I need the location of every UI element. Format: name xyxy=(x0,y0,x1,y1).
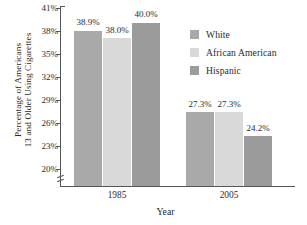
x-axis-line xyxy=(60,186,295,187)
legend-item-white[interactable]: White xyxy=(190,26,277,42)
x-tick-2005: 2005 xyxy=(220,190,239,200)
bar-1985-white[interactable] xyxy=(74,31,102,186)
bar-chart: Percentage of Americans 13 and Older Usi… xyxy=(0,0,307,225)
legend-swatch-white xyxy=(190,30,199,39)
legend-swatch-african-american xyxy=(190,48,199,57)
bar-label-1985-white: 38.9% xyxy=(76,17,99,27)
bar-label-1985-african-american: 38.0% xyxy=(105,25,128,35)
legend-swatch-hispanic xyxy=(190,66,199,75)
bar-label-2005-hispanic: 24.2% xyxy=(246,123,269,133)
legend-label-white: White xyxy=(206,29,230,40)
bar-2005-african-american[interactable] xyxy=(215,112,243,186)
x-axis-title: Year xyxy=(0,206,307,217)
legend: White African American Hispanic xyxy=(190,26,277,80)
bar-label-1985-hispanic: 40.0% xyxy=(134,9,157,19)
x-axis-title-text: Year xyxy=(156,206,174,217)
bar-2005-hispanic[interactable] xyxy=(244,136,272,186)
legend-item-hispanic[interactable]: Hispanic xyxy=(190,62,277,78)
bar-label-2005-white: 27.3% xyxy=(188,99,211,109)
bar-1985-hispanic[interactable] xyxy=(132,23,160,186)
bar-label-2005-african-american: 27.3% xyxy=(217,99,240,109)
x-tick-1985: 1985 xyxy=(108,190,127,200)
y-axis-title-line1: Percentage of Americans xyxy=(13,43,23,137)
legend-item-african-american[interactable]: African American xyxy=(190,44,277,60)
bar-2005-white[interactable] xyxy=(186,112,214,186)
y-axis-tick-labels: 41% 38% 35% 32% 29% 26% 23% 20% xyxy=(28,0,58,190)
bar-1985-african-american[interactable] xyxy=(103,38,131,186)
legend-label-african-american: African American xyxy=(206,47,277,58)
legend-label-hispanic: Hispanic xyxy=(206,65,241,76)
